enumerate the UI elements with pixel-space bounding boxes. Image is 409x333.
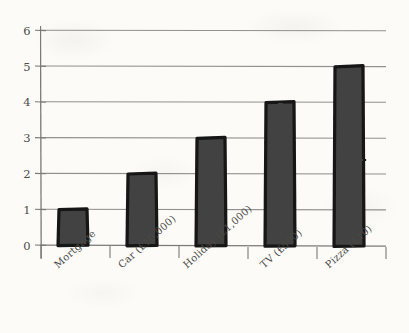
y-axis-line [41,26,42,259]
bar-tv [265,102,295,247]
y-tick-label-3: 3 [23,131,30,145]
y-tick-label-6: 6 [23,24,30,38]
y-tick-label-5: 5 [23,60,30,74]
plot-area: 0 1 2 3 4 5 6 [0,0,409,333]
y-tick-label-2: 2 [23,167,30,181]
y-tick-label-0: 0 [23,239,30,253]
y-tick-label-1: 1 [23,203,30,217]
bars [58,66,364,247]
y-tick-label-4: 4 [23,95,30,109]
bar-pizza [334,66,364,247]
bar-chart: 0 1 2 3 4 5 6 Mortgage Car (£10,000) Hol… [0,0,409,333]
y-axis-tick-labels: 0 1 2 3 4 5 6 [23,24,30,253]
